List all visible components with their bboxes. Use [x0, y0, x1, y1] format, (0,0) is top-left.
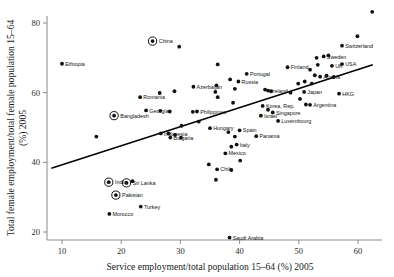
point-label: Singapore	[276, 110, 301, 116]
data-point[interactable]	[94, 135, 98, 139]
data-point[interactable]	[131, 179, 135, 183]
data-point[interactable]	[315, 56, 319, 60]
point-label: Switzerland	[345, 43, 373, 49]
data-point[interactable]	[214, 178, 218, 182]
data-point[interactable]	[228, 78, 232, 82]
data-point[interactable]	[263, 88, 267, 92]
data-point[interactable]	[310, 82, 314, 86]
point-label: Ethiopia	[65, 61, 84, 67]
data-point[interactable]	[158, 91, 162, 95]
data-point[interactable]	[168, 136, 172, 140]
data-point[interactable]	[207, 163, 211, 167]
data-point[interactable]	[245, 72, 249, 76]
data-point[interactable]	[325, 74, 329, 78]
point-label: China	[159, 38, 173, 44]
data-point[interactable]	[180, 124, 184, 128]
data-point[interactable]	[340, 62, 344, 66]
point-label: Hungary	[213, 125, 234, 131]
data-point[interactable]	[195, 110, 199, 114]
data-point[interactable]	[313, 73, 317, 77]
data-point[interactable]	[208, 126, 212, 130]
data-point[interactable]	[197, 120, 201, 124]
data-point[interactable]	[238, 128, 242, 132]
data-point[interactable]	[215, 167, 219, 171]
data-point[interactable]	[318, 75, 322, 79]
data-point[interactable]	[226, 130, 230, 134]
data-point[interactable]	[138, 95, 142, 99]
data-point[interactable]	[229, 145, 233, 149]
data-point[interactable]	[298, 97, 302, 101]
data-point[interactable]	[276, 119, 280, 123]
data-point[interactable]	[231, 101, 235, 105]
point-label: Japan	[307, 89, 322, 95]
data-point[interactable]	[238, 159, 242, 163]
data-point[interactable]	[302, 90, 306, 94]
data-point[interactable]	[125, 181, 129, 185]
data-point[interactable]	[144, 109, 148, 113]
data-point[interactable]	[216, 95, 220, 99]
data-point[interactable]	[107, 212, 111, 216]
data-point[interactable]	[177, 45, 181, 49]
data-point[interactable]	[337, 92, 341, 96]
data-point[interactable]	[191, 110, 195, 114]
data-point[interactable]	[266, 108, 270, 112]
data-point[interactable]	[173, 89, 177, 93]
data-point[interactable]	[179, 136, 183, 140]
data-point[interactable]	[167, 132, 171, 136]
data-point[interactable]	[316, 63, 320, 67]
data-point[interactable]	[271, 111, 275, 115]
data-point[interactable]	[228, 236, 232, 240]
data-point[interactable]	[112, 114, 116, 118]
data-point[interactable]	[168, 110, 172, 114]
data-point[interactable]	[327, 53, 331, 57]
data-point[interactable]	[289, 91, 293, 95]
point-label: Panama	[259, 133, 279, 139]
data-point[interactable]	[107, 180, 111, 184]
data-point[interactable]	[139, 205, 143, 209]
data-point[interactable]	[233, 135, 237, 139]
data-point[interactable]	[216, 63, 220, 67]
data-point[interactable]	[322, 55, 326, 59]
data-point[interactable]	[114, 193, 118, 197]
data-point[interactable]	[296, 82, 300, 86]
data-point[interactable]	[151, 39, 155, 43]
x-tick-label: 60	[354, 246, 363, 256]
point-label: Turkey	[144, 204, 161, 210]
data-point[interactable]	[173, 133, 177, 137]
point-label: Romania	[143, 94, 165, 100]
point-label: Spain	[243, 127, 257, 133]
data-point[interactable]	[261, 104, 265, 108]
data-point[interactable]	[215, 83, 219, 87]
data-point[interactable]	[233, 87, 237, 91]
data-point[interactable]	[235, 143, 239, 147]
data-point[interactable]	[340, 44, 344, 48]
x-axis-title: Service employment/total population 15–6…	[106, 261, 313, 273]
data-point[interactable]	[330, 64, 334, 68]
data-point[interactable]	[303, 80, 307, 84]
data-point[interactable]	[213, 90, 217, 94]
x-tick-label: 40	[235, 246, 244, 256]
data-point[interactable]	[304, 103, 308, 107]
data-point[interactable]	[269, 89, 273, 93]
y-tick-label: 40	[32, 157, 41, 167]
point-label: Italy	[240, 142, 250, 148]
point-label: Morocco	[113, 211, 134, 217]
data-point[interactable]	[158, 109, 162, 113]
data-point[interactable]	[159, 132, 163, 136]
data-point[interactable]	[308, 68, 312, 72]
data-point[interactable]	[229, 168, 233, 172]
data-point[interactable]	[259, 114, 263, 118]
data-point[interactable]	[308, 103, 312, 107]
data-point[interactable]	[254, 134, 258, 138]
data-point[interactable]	[192, 85, 196, 89]
data-point[interactable]	[286, 65, 290, 69]
point-label: Luxembourg	[281, 118, 311, 124]
data-point[interactable]	[370, 10, 374, 14]
chart-canvas: 20406080102030405060EthiopiaChinaBanglad…	[0, 0, 394, 277]
point-label: Bangladesh	[120, 113, 148, 119]
data-point[interactable]	[356, 34, 360, 38]
data-point[interactable]	[223, 151, 227, 155]
data-point[interactable]	[237, 80, 241, 84]
data-point[interactable]	[332, 75, 336, 79]
data-point[interactable]	[60, 62, 64, 66]
